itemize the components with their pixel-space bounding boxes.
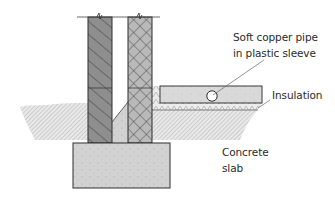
- label-slab-line2: slab: [222, 162, 243, 174]
- inner-wall: [128, 17, 152, 143]
- ground-left: [20, 103, 88, 140]
- ground-right: [152, 110, 258, 140]
- copper-pipe: [207, 91, 217, 101]
- label-slab-line1: Concrete: [222, 146, 269, 158]
- label-insulation: Insulation: [272, 89, 322, 101]
- outer-wall: [88, 17, 112, 143]
- label-pipe-line2: in plastic sleeve: [233, 47, 316, 59]
- cavity-fill: [112, 102, 128, 143]
- label-pipe-line1: Soft copper pipe: [233, 31, 318, 43]
- concrete-footing: [73, 143, 170, 188]
